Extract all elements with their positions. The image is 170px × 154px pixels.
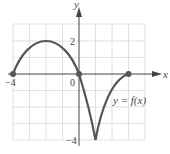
- function-graph: x y −4 0 2 −4 y = f(x): [0, 0, 170, 154]
- tick-origin: 0: [70, 77, 75, 88]
- x-axis-arrow-icon: [152, 71, 162, 77]
- y-axis-label: y: [73, 0, 79, 10]
- tick-x-neg4: −4: [5, 77, 16, 88]
- endpoint-right: [126, 71, 132, 77]
- function-label: y = f(x): [112, 94, 146, 107]
- tick-y-neg4: −4: [66, 135, 77, 146]
- axes: [8, 12, 156, 146]
- tick-y-2: 2: [70, 36, 75, 47]
- endpoint-origin: [76, 71, 82, 77]
- x-axis-label: x: [162, 68, 168, 80]
